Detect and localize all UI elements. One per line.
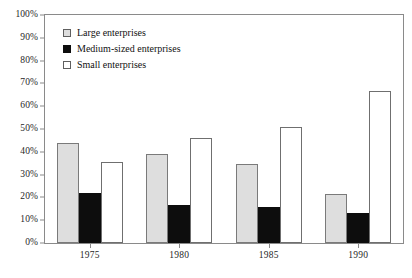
x-axis-tick-mark: [269, 244, 270, 248]
y-axis: 0%10%20%30%40%50%60%70%80%90%100%: [0, 14, 44, 244]
bar: [168, 205, 190, 243]
bar: [347, 213, 369, 243]
bar-chart: 0%10%20%30%40%50%60%70%80%90%100% 197519…: [0, 0, 412, 278]
bar: [57, 143, 79, 243]
square-gray-icon: [63, 29, 71, 37]
y-axis-tick-label: 60%: [20, 101, 38, 111]
x-axis-tick-label: 1985: [259, 251, 279, 261]
x-axis-tick-mark: [90, 244, 91, 248]
y-axis-tick-label: 100%: [15, 10, 38, 20]
y-axis-tick-label: 80%: [20, 56, 38, 66]
x-axis-tick-label: 1980: [169, 251, 189, 261]
y-axis-tick-label: 30%: [20, 170, 38, 180]
bar: [79, 193, 101, 243]
x-axis-tick-mark: [358, 244, 359, 248]
bar-group: [224, 15, 314, 243]
bar: [280, 127, 302, 243]
legend-item-label: Medium-sized enterprises: [77, 44, 181, 54]
x-axis: 1975198019851990: [44, 244, 404, 274]
chart-legend: Large enterprisesMedium-sized enterprise…: [63, 26, 181, 74]
y-axis-tick-label: 90%: [20, 33, 38, 43]
bar: [369, 91, 391, 243]
legend-item: Medium-sized enterprises: [63, 42, 181, 56]
bar: [101, 162, 123, 243]
y-axis-tick-label: 20%: [20, 193, 38, 203]
bar: [258, 207, 280, 243]
bar-group: [314, 15, 404, 243]
x-axis-tick-label: 1990: [348, 251, 368, 261]
y-axis-tick-label: 50%: [20, 124, 38, 134]
bar: [146, 154, 168, 243]
legend-item: Large enterprises: [63, 26, 181, 40]
y-axis-tick-label: 0%: [25, 238, 38, 248]
square-black-icon: [63, 45, 71, 53]
x-axis-tick-label: 1975: [80, 251, 100, 261]
legend-item: Small enterprises: [63, 58, 181, 72]
x-axis-tick-mark: [179, 244, 180, 248]
bar: [325, 194, 347, 243]
legend-item-label: Large enterprises: [77, 28, 146, 38]
y-axis-tick-label: 40%: [20, 147, 38, 157]
legend-item-label: Small enterprises: [77, 60, 146, 70]
y-axis-tick-label: 10%: [20, 215, 38, 225]
square-white-icon: [63, 61, 71, 69]
bar: [190, 138, 212, 243]
bar: [236, 164, 258, 243]
y-axis-tick-label: 70%: [20, 79, 38, 89]
